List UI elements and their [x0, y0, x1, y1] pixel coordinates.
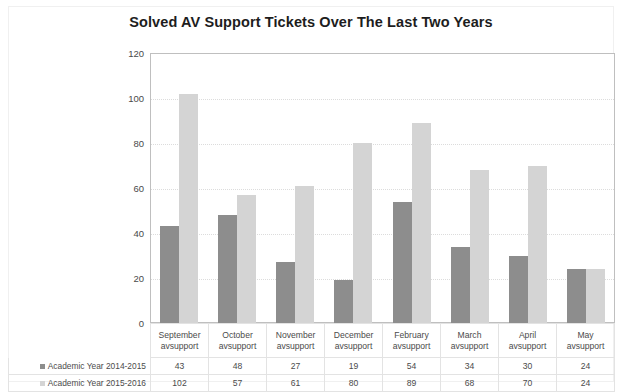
category-sublabel: avsupport	[557, 341, 614, 352]
bar-october-series1	[237, 195, 256, 323]
bar-march-series0	[451, 247, 470, 324]
cell-february-series0: 54	[383, 358, 441, 375]
cell-october-series1: 57	[209, 375, 267, 392]
cell-december-series0: 19	[325, 358, 383, 375]
cell-february-series1: 89	[383, 375, 441, 392]
bar-february-series1	[412, 123, 431, 323]
bar-march-series1	[470, 170, 489, 323]
y-tick-100: 100	[104, 93, 144, 104]
cell-march-series1: 68	[441, 375, 499, 392]
cell-october-series0: 48	[209, 358, 267, 375]
bar-november-series0	[276, 262, 295, 323]
y-tick-120: 120	[104, 48, 144, 59]
bar-group-may	[557, 53, 615, 323]
data-table-body: SeptemberavsupportOctoberavsupportNovemb…	[9, 324, 615, 392]
bar-december-series1	[353, 143, 372, 323]
bar-april-series0	[509, 256, 528, 324]
bar-may-series0	[567, 269, 586, 323]
category-sublabel: avsupport	[267, 341, 324, 352]
legend-swatch-icon	[40, 381, 45, 386]
y-axis-tick-labels: 120100806040200	[104, 53, 144, 323]
cell-march-series0: 34	[441, 358, 499, 375]
cell-april-series0: 30	[499, 358, 557, 375]
cell-november-series0: 27	[267, 358, 325, 375]
y-tick-40: 40	[104, 228, 144, 239]
y-tick-80: 80	[104, 138, 144, 149]
category-label: May	[557, 330, 614, 341]
bar-group-march	[441, 53, 499, 323]
y-tick-60: 60	[104, 183, 144, 194]
table-header-october: Octoberavsupport	[209, 324, 267, 358]
bar-group-november	[266, 53, 324, 323]
cell-september-series0: 43	[151, 358, 209, 375]
bar-group-october	[208, 53, 266, 323]
bar-group-december	[324, 53, 382, 323]
table-row: Academic Year 2015-201610257618089687024	[9, 375, 615, 392]
bar-april-series1	[528, 166, 547, 324]
category-label: April	[499, 330, 556, 341]
bar-group-april	[499, 53, 557, 323]
table-header-row: SeptemberavsupportOctoberavsupportNovemb…	[9, 324, 615, 358]
bar-september-series0	[160, 226, 179, 323]
legend-label: Academic Year 2015-2016	[48, 378, 146, 388]
bars-layer	[150, 53, 615, 323]
chart-title: Solved AV Support Tickets Over The Last …	[0, 14, 622, 30]
table-header-april: Aprilavsupport	[499, 324, 557, 358]
table-header-november: Novemberavsupport	[267, 324, 325, 358]
category-sublabel: avsupport	[151, 341, 208, 352]
cell-april-series1: 70	[499, 375, 557, 392]
bar-group-september	[150, 53, 208, 323]
category-label: March	[441, 330, 498, 341]
table-header-february: Februaryavsupport	[383, 324, 441, 358]
chart-data-table: SeptemberavsupportOctoberavsupportNovemb…	[8, 323, 615, 392]
cell-september-series1: 102	[151, 375, 209, 392]
category-label: September	[151, 330, 208, 341]
bar-september-series1	[179, 94, 198, 324]
category-sublabel: avsupport	[383, 341, 440, 352]
bar-december-series0	[334, 280, 353, 323]
bar-october-series0	[218, 215, 237, 323]
table-corner-cell	[9, 324, 151, 358]
bar-november-series1	[295, 186, 314, 323]
chart-plot	[150, 53, 615, 323]
table-header-september: Septemberavsupport	[151, 324, 209, 358]
category-sublabel: avsupport	[499, 341, 556, 352]
cell-december-series1: 80	[325, 375, 383, 392]
legend-swatch-icon	[40, 364, 45, 369]
category-label: December	[325, 330, 382, 341]
table-header-may: Mayavsupport	[557, 324, 615, 358]
bar-group-february	[383, 53, 441, 323]
legend-label: Academic Year 2014-2015	[48, 361, 146, 371]
y-tick-20: 20	[104, 273, 144, 284]
legend-item-series0: Academic Year 2014-2015	[9, 358, 151, 375]
category-sublabel: avsupport	[325, 341, 382, 352]
bar-february-series0	[393, 202, 412, 324]
category-label: October	[209, 330, 266, 341]
category-sublabel: avsupport	[441, 341, 498, 352]
cell-may-series1: 24	[557, 375, 615, 392]
category-sublabel: avsupport	[209, 341, 266, 352]
table-row: Academic Year 2014-20154348271954343024	[9, 358, 615, 375]
bar-may-series1	[586, 269, 605, 323]
table-header-december: Decemberavsupport	[325, 324, 383, 358]
cell-may-series0: 24	[557, 358, 615, 375]
cell-november-series1: 61	[267, 375, 325, 392]
legend-item-series1: Academic Year 2015-2016	[9, 375, 151, 392]
category-label: February	[383, 330, 440, 341]
table-header-march: Marchavsupport	[441, 324, 499, 358]
category-label: November	[267, 330, 324, 341]
